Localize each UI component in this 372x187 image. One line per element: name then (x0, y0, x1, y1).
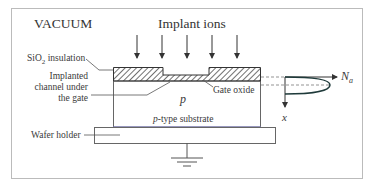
implant-ions-label: Implant ions (158, 16, 226, 32)
na-axis-label: Na (341, 69, 353, 85)
p-type-substrate-label: p-type substrate (153, 114, 213, 124)
sio2-insulation-label: SiO2 insulation (27, 53, 85, 66)
doping-profile-curve (285, 77, 330, 94)
vacuum-label: VACUUM (34, 16, 92, 32)
gate-oxide-label: Gate oxide (213, 85, 254, 95)
sio2-insulation (114, 68, 261, 82)
implanted-channel-label: Implanted channel under the gate (30, 71, 88, 104)
x-axis-label: x (282, 111, 287, 123)
implant-ion-arrows (137, 35, 237, 58)
p-region-label: p (180, 92, 186, 107)
wafer-holder (95, 128, 276, 144)
ground-icon (171, 143, 203, 166)
wafer-holder-label: Wafer holder (31, 130, 81, 140)
sio2-leader (86, 59, 113, 70)
